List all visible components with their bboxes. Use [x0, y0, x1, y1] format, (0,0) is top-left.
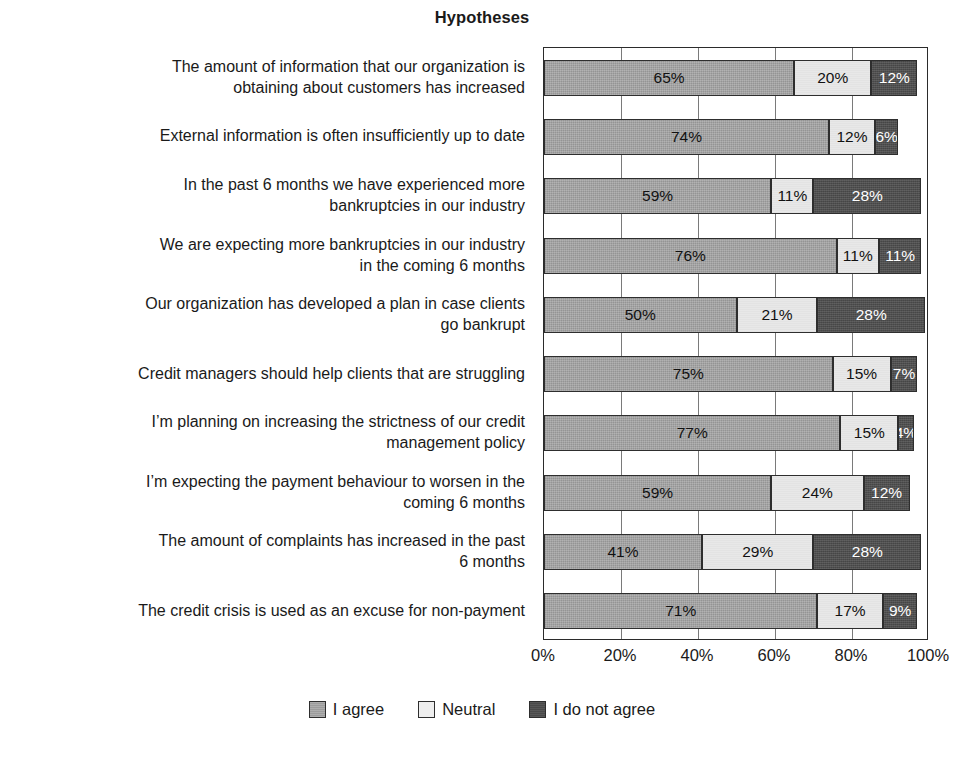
- bar-segment-neutral: 12%: [829, 119, 875, 155]
- bar-segment-neutral: 24%: [771, 475, 863, 511]
- bar-value-label: 11%: [843, 247, 873, 265]
- bar-value-label: 28%: [852, 543, 883, 561]
- category-label-line: In the past 6 months we have experienced…: [5, 174, 525, 195]
- legend-swatch-agree-icon: [309, 701, 326, 718]
- bar-value-label: 12%: [836, 128, 867, 146]
- bar-row: 65%20%12%: [544, 60, 927, 96]
- chart-title: Hypotheses: [0, 8, 964, 27]
- bar-segment-disagree: 9%: [883, 593, 918, 629]
- bar-segment-agree: 75%: [544, 356, 833, 392]
- bar-value-label: 21%: [761, 306, 792, 324]
- legend-item[interactable]: I agree: [309, 700, 384, 719]
- bar-value-label: 28%: [852, 187, 883, 205]
- category-label-line: The credit crisis is used as an excuse f…: [5, 600, 525, 621]
- bar-value-label: 28%: [856, 306, 887, 324]
- category-label-line: I’m planning on increasing the strictnes…: [5, 411, 525, 432]
- legend-swatch-disagree-icon: [529, 701, 546, 718]
- bar-value-label: 59%: [642, 484, 673, 502]
- category-label: The credit crisis is used as an excuse f…: [5, 600, 525, 621]
- legend-item[interactable]: Neutral: [418, 700, 495, 719]
- bar-value-label: 12%: [871, 484, 902, 502]
- bar-row: 59%24%12%: [544, 475, 927, 511]
- bar-segment-neutral: 21%: [737, 297, 818, 333]
- x-axis-tick-label: 20%: [603, 646, 636, 665]
- bar-segment-disagree: 12%: [871, 60, 917, 96]
- legend-label: I agree: [333, 700, 384, 719]
- bar-value-label: 6%: [875, 128, 897, 146]
- category-label: External information is often insufficie…: [5, 125, 525, 146]
- bar-segment-agree: 71%: [544, 593, 817, 629]
- bar-segment-neutral: 15%: [833, 356, 891, 392]
- category-label-line: Our organization has developed a plan in…: [5, 293, 525, 314]
- bar-value-label: 4%: [898, 424, 913, 442]
- bar-segment-neutral: 15%: [840, 415, 898, 451]
- category-label-line: The amount of complaints has increased i…: [5, 530, 525, 551]
- x-axis-tick-label: 40%: [680, 646, 713, 665]
- legend-label: I do not agree: [553, 700, 655, 719]
- bar-segment-agree: 74%: [544, 119, 829, 155]
- category-label-line: I’m expecting the payment behaviour to w…: [5, 471, 525, 492]
- legend-swatch-neutral-icon: [418, 701, 435, 718]
- bar-value-label: 74%: [671, 128, 702, 146]
- bar-row: 71%17%9%: [544, 593, 927, 629]
- category-label: The amount of complaints has increased i…: [5, 530, 525, 572]
- bar-value-label: 20%: [817, 69, 848, 87]
- category-label: I’m expecting the payment behaviour to w…: [5, 471, 525, 513]
- bar-segment-neutral: 11%: [771, 178, 813, 214]
- bar-segment-agree: 65%: [544, 60, 794, 96]
- category-label: The amount of information that our organ…: [5, 56, 525, 98]
- legend-item[interactable]: I do not agree: [529, 700, 655, 719]
- x-axis-tick-label: 100%: [907, 646, 949, 665]
- plot-area: 65%20%12%74%12%6%59%11%28%76%11%11%50%21…: [543, 47, 928, 640]
- category-label-line: go bankrupt: [5, 314, 525, 335]
- bar-segment-neutral: 29%: [702, 534, 814, 570]
- bar-value-label: 59%: [642, 187, 673, 205]
- category-label-line: We are expecting more bankruptcies in ou…: [5, 234, 525, 255]
- bar-segment-agree: 41%: [544, 534, 702, 570]
- bar-segment-disagree: 28%: [813, 178, 921, 214]
- bar-row: 74%12%6%: [544, 119, 927, 155]
- bar-segment-agree: 59%: [544, 178, 771, 214]
- category-label-line: External information is often insufficie…: [5, 125, 525, 146]
- x-axis-tick-label: 0%: [531, 646, 555, 665]
- bar-segment-neutral: 20%: [794, 60, 871, 96]
- bar-segment-agree: 59%: [544, 475, 771, 511]
- category-label-line: bankruptcies in our industry: [5, 195, 525, 216]
- bar-row: 75%15%7%: [544, 356, 927, 392]
- bar-value-label: 12%: [879, 69, 910, 87]
- bar-segment-agree: 77%: [544, 415, 840, 451]
- bar-row: 41%29%28%: [544, 534, 927, 570]
- bar-segment-disagree: 7%: [891, 356, 918, 392]
- bar-segment-agree: 50%: [544, 297, 737, 333]
- bar-value-label: 76%: [675, 247, 706, 265]
- bar-value-label: 15%: [854, 424, 885, 442]
- bar-segment-disagree: 12%: [864, 475, 910, 511]
- bar-value-label: 41%: [607, 543, 638, 561]
- category-label: Our organization has developed a plan in…: [5, 293, 525, 335]
- stacked-bar-chart: Hypotheses The amount of information tha…: [0, 0, 964, 777]
- category-label-line: 6 months: [5, 551, 525, 572]
- category-label: We are expecting more bankruptcies in ou…: [5, 234, 525, 276]
- bar-rows: 65%20%12%74%12%6%59%11%28%76%11%11%50%21…: [544, 48, 927, 639]
- bar-segment-disagree: 11%: [879, 238, 921, 274]
- legend-label: Neutral: [442, 700, 495, 719]
- chart-legend: I agreeNeutralI do not agree: [0, 700, 964, 719]
- bar-segment-disagree: 4%: [898, 415, 913, 451]
- category-label-line: management policy: [5, 432, 525, 453]
- bar-value-label: 71%: [665, 602, 696, 620]
- bar-value-label: 50%: [625, 306, 656, 324]
- bar-segment-agree: 76%: [544, 238, 837, 274]
- bar-value-label: 7%: [893, 365, 915, 383]
- bar-value-label: 29%: [742, 543, 773, 561]
- bar-segment-disagree: 28%: [817, 297, 925, 333]
- bar-segment-neutral: 11%: [837, 238, 879, 274]
- bar-row: 77%15%4%: [544, 415, 927, 451]
- bar-row: 50%21%28%: [544, 297, 927, 333]
- bar-value-label: 15%: [846, 365, 877, 383]
- category-label: I’m planning on increasing the strictnes…: [5, 411, 525, 453]
- bar-value-label: 77%: [677, 424, 708, 442]
- bar-value-label: 9%: [889, 602, 911, 620]
- category-label-line: coming 6 months: [5, 492, 525, 513]
- x-axis-tick-labels: 0%20%40%60%80%100%: [543, 646, 928, 672]
- category-label-line: obtaining about customers has increased: [5, 77, 525, 98]
